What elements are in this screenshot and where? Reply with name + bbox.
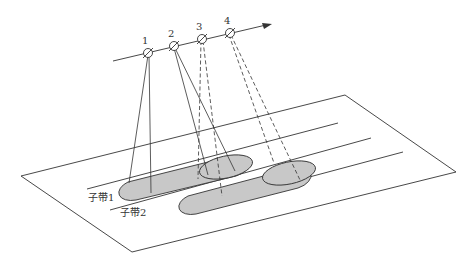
arrow-head-icon: [262, 23, 272, 29]
satellite-label-1: 1: [142, 35, 148, 46]
satellite-label-4: 4: [224, 15, 230, 26]
flight-track: [113, 25, 266, 61]
satellite-1: [143, 48, 153, 58]
satellite-label-2: 2: [168, 28, 174, 39]
subswath-label-1: 子带1: [88, 192, 114, 203]
subswath-label-2: 子带2: [120, 207, 146, 218]
satellite-4: [225, 28, 235, 38]
beam-line-dashed: [229, 35, 274, 163]
satellite-2: [169, 41, 179, 51]
beam-line: [175, 48, 235, 171]
beam-line: [174, 48, 208, 175]
satellite-3: [197, 34, 207, 44]
diagram-canvas: 1 2 3 4 子带1 子带2: [0, 0, 469, 265]
beam-line-dashed: [198, 41, 201, 179]
beam-line: [129, 55, 148, 183]
satellite-label-3: 3: [196, 21, 202, 32]
